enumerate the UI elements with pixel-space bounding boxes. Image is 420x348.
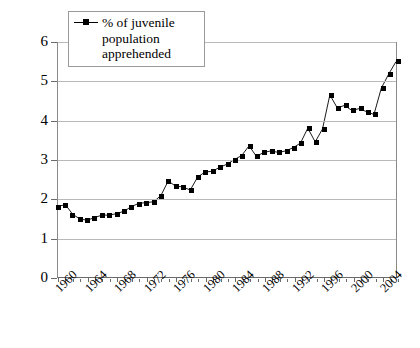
data-point — [366, 110, 371, 115]
chart-legend: % of juvenile population apprehended — [68, 11, 205, 67]
y-tick-label: 4 — [2, 113, 48, 128]
data-point — [189, 188, 194, 193]
data-point — [270, 149, 275, 154]
data-point — [381, 86, 386, 91]
data-point — [203, 170, 208, 175]
gridline — [58, 239, 396, 240]
x-tick-minor — [80, 279, 81, 282]
data-point — [196, 175, 201, 180]
data-point — [373, 112, 378, 117]
data-point — [137, 202, 142, 207]
x-tick-minor — [110, 279, 111, 282]
data-point — [388, 72, 393, 77]
plot-area — [57, 42, 397, 278]
legend-marker-icon — [74, 15, 98, 30]
data-point — [144, 201, 149, 206]
x-tick-minor — [287, 279, 288, 282]
y-tick-label: 2 — [2, 191, 48, 206]
data-point — [344, 103, 349, 108]
data-point — [70, 213, 75, 218]
data-point — [78, 217, 83, 222]
data-point — [329, 93, 334, 98]
data-point — [255, 154, 260, 159]
data-point — [262, 150, 267, 155]
gridline — [58, 199, 396, 200]
data-point — [174, 184, 179, 189]
data-point — [56, 205, 61, 210]
data-point — [322, 127, 327, 132]
data-point — [63, 203, 68, 208]
data-point — [299, 141, 304, 146]
data-point — [218, 165, 223, 170]
data-point — [351, 108, 356, 113]
data-point — [292, 146, 297, 151]
y-tick-mark — [51, 199, 57, 200]
x-tick-minor — [198, 279, 199, 282]
x-tick-minor — [169, 279, 170, 282]
data-point — [85, 218, 90, 223]
y-tick-label: 5 — [2, 73, 48, 88]
y-tick-mark — [51, 42, 57, 43]
y-tick-label: 3 — [2, 152, 48, 167]
data-point — [233, 158, 238, 163]
x-tick-minor — [376, 279, 377, 282]
data-point — [285, 149, 290, 154]
y-tick-mark — [51, 121, 57, 122]
data-point — [248, 144, 253, 149]
data-point — [396, 59, 401, 64]
y-tick-label: 6 — [2, 34, 48, 49]
data-point — [211, 169, 216, 174]
x-tick-minor — [317, 279, 318, 282]
data-point — [159, 194, 164, 199]
y-tick-label: 1 — [2, 231, 48, 246]
data-point — [122, 209, 127, 214]
legend-label: % of juvenile population apprehended — [102, 15, 198, 62]
data-point — [181, 185, 186, 190]
data-point — [100, 213, 105, 218]
chart-container: 0123456 19601964196819721976198019841988… — [0, 0, 420, 348]
gridline — [58, 160, 396, 161]
x-tick-minor — [258, 279, 259, 282]
gridline — [58, 81, 396, 82]
data-point — [92, 216, 97, 221]
data-point — [314, 140, 319, 145]
gridline — [58, 121, 396, 122]
data-point — [152, 200, 157, 205]
data-point — [240, 154, 245, 159]
data-point — [336, 106, 341, 111]
data-point — [129, 205, 134, 210]
data-point — [107, 213, 112, 218]
y-tick-mark — [51, 239, 57, 240]
y-tick-mark — [51, 160, 57, 161]
data-point — [166, 179, 171, 184]
y-tick-label: 0 — [2, 270, 48, 285]
x-tick-minor — [346, 279, 347, 282]
data-point — [359, 106, 364, 111]
y-tick-mark — [51, 81, 57, 82]
data-point — [226, 162, 231, 167]
data-point — [307, 126, 312, 131]
x-tick-minor — [139, 279, 140, 282]
x-tick-minor — [228, 279, 229, 282]
y-tick-mark — [51, 278, 57, 279]
data-point — [277, 150, 282, 155]
data-point — [115, 212, 120, 217]
